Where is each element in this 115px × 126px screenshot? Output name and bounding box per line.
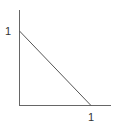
- y-tick-label: 1: [5, 25, 11, 37]
- diagram-canvas: 1 1: [0, 0, 115, 126]
- x-tick-label: 1: [88, 111, 94, 123]
- diagonal-line: [20, 31, 92, 106]
